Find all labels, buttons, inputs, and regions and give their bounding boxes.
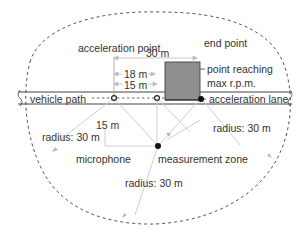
label-dist-15-top: 15 m [124,79,147,91]
label-measurement-zone: measurement zone [158,153,248,165]
label-end-point: end point [204,37,247,49]
diagram-graphics [0,0,308,242]
label-microphone: microphone [76,153,131,165]
max-rpm-box [165,62,200,100]
label-radius-right: radius: 30 m [213,122,271,134]
acceleration-point-marker [112,96,117,101]
label-point-reaching: point reaching [207,63,273,75]
end-point-marker [198,96,204,102]
label-dist-15-side: 15 m [96,119,119,131]
label-dist-30: 30 m [146,47,169,59]
label-radius-bottom: radius: 30 m [125,177,183,189]
label-acceleration-lane: acceleration lane [209,93,288,105]
microphone-marker [155,143,161,149]
label-radius-left: radius: 30 m [42,131,100,143]
diagram-canvas: acceleration point end point 30 m 18 m 1… [0,0,308,242]
label-vehicle-path: vehicle path [30,93,86,105]
label-max-rpm: max r.p.m. [207,77,256,89]
midpoint-marker [155,96,160,101]
